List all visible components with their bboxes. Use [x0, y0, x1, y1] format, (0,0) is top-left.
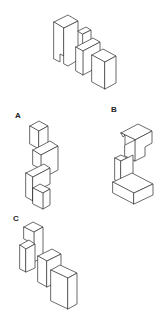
option-b-figure[interactable] — [95, 100, 165, 210]
option-a-figure[interactable] — [0, 100, 80, 210]
reference-figure — [0, 0, 165, 100]
option-b-drawing — [95, 100, 165, 210]
option-c-drawing — [0, 210, 95, 311]
option-c-figure[interactable] — [0, 210, 95, 311]
option-a-drawing — [0, 100, 80, 210]
reference-figure-drawing — [0, 0, 165, 100]
